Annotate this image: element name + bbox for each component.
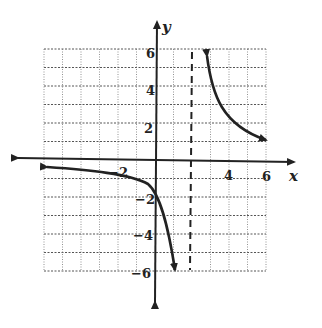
vertical-asymptote	[190, 52, 192, 270]
tick-y-neg2: −2	[135, 192, 155, 207]
tick-y-2: 2	[144, 121, 153, 136]
tick-y-neg6: −6	[131, 266, 151, 281]
tick-y-6: 6	[146, 46, 155, 61]
tick-y-neg4: −4	[133, 228, 153, 243]
y-axis-label: y	[161, 18, 172, 36]
tick-y-4: 4	[146, 83, 155, 98]
tick-x-4: 4	[224, 168, 233, 183]
chart: −2 4 6 6 4 2 −2 −4 −6 x y	[0, 0, 322, 328]
x-axis-label: x	[288, 167, 299, 185]
y-axis	[155, 22, 157, 302]
tick-x-neg2: −2	[108, 165, 128, 180]
right-branch-curve	[207, 56, 266, 140]
tick-x-6: 6	[262, 169, 271, 184]
